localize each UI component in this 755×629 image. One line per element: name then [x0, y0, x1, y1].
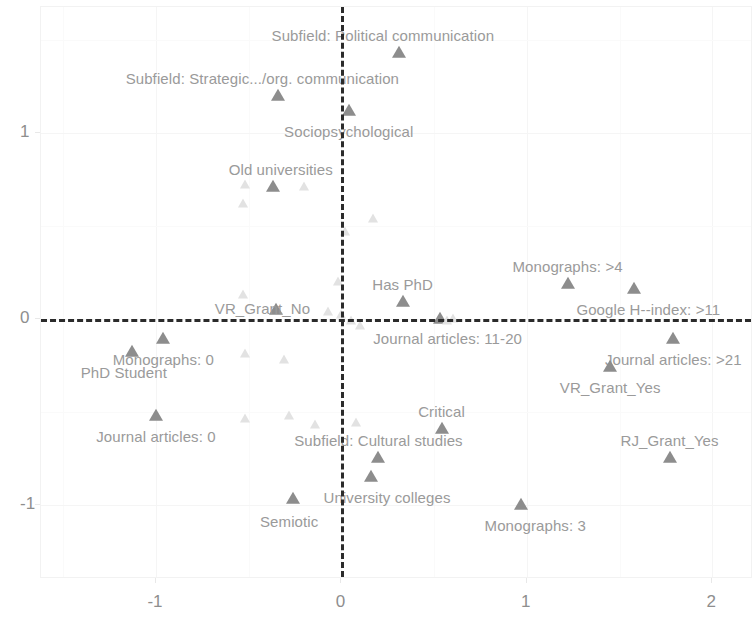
data-point — [603, 360, 617, 372]
x-tick-mark — [340, 578, 341, 583]
data-point-faint — [238, 198, 248, 207]
data-point — [364, 470, 378, 482]
data-point — [663, 451, 677, 463]
gridline-horizontal-minor — [41, 226, 751, 227]
data-point-faint — [340, 226, 350, 235]
data-point-label: Monographs: 3 — [485, 517, 586, 532]
data-point — [286, 492, 300, 504]
data-point — [125, 345, 139, 357]
data-point-label: Critical — [418, 403, 465, 418]
data-point-label: Has PhD — [372, 277, 433, 292]
y-tick-mark — [35, 504, 40, 505]
x-tick-label: 2 — [706, 592, 715, 612]
chart-figure: Subfield: Political communicationSubfiel… — [0, 0, 755, 629]
data-point-faint — [299, 182, 309, 191]
data-point-label: Google H--index: >11 — [576, 302, 720, 317]
data-point-label: PhD Student — [81, 365, 167, 380]
data-point — [342, 104, 356, 116]
data-point-faint — [240, 414, 250, 423]
y-tick-label: 1 — [20, 122, 29, 142]
plot-panel: Subfield: Political communicationSubfiel… — [40, 6, 752, 578]
data-point-faint — [448, 314, 458, 323]
data-point-label: Old universities — [229, 162, 333, 177]
gridline-vertical-minor — [620, 7, 621, 577]
gridline-horizontal-minor — [41, 412, 751, 413]
data-point-faint — [238, 289, 248, 298]
data-point — [396, 295, 410, 307]
data-point — [392, 46, 406, 58]
data-point-label: RJ_Grant_Yes — [620, 433, 718, 448]
x-tick-label: 1 — [521, 592, 530, 612]
data-point-label: Journal articles: 0 — [96, 428, 215, 443]
data-point-label: Semiotic — [260, 514, 318, 529]
data-point-faint — [333, 276, 343, 285]
data-point-label: Subfield: Strategic.../org. communicatio… — [126, 71, 399, 86]
data-point — [271, 89, 285, 101]
data-point-faint — [310, 419, 320, 428]
data-point — [666, 332, 680, 344]
data-point-faint — [323, 306, 333, 315]
x-tick-mark — [711, 578, 712, 583]
gridline-vertical-minor — [63, 7, 64, 577]
data-point-faint — [240, 180, 250, 189]
data-point-label: Sociopsychological — [284, 124, 413, 139]
data-point-label: University colleges — [324, 489, 451, 504]
data-point — [627, 282, 641, 294]
data-point — [561, 277, 575, 289]
gridline-vertical — [712, 7, 713, 577]
y-tick-label: -1 — [20, 494, 35, 514]
data-point-label: Subfield: Cultural studies — [294, 433, 463, 448]
y-tick-mark — [35, 318, 40, 319]
x-tick-mark — [155, 578, 156, 583]
data-point-label: Journal articles: >21 — [605, 352, 742, 367]
data-point-label: Monographs: >4 — [512, 258, 622, 273]
data-point-faint — [368, 213, 378, 222]
data-point-faint — [240, 349, 250, 358]
data-point-label: Journal articles: 11-20 — [373, 331, 522, 346]
x-tick-mark — [526, 578, 527, 583]
gridline-vertical — [527, 7, 528, 577]
y-tick-label: 0 — [20, 308, 29, 328]
data-point — [149, 408, 163, 420]
data-point-label: VR_Grant_Yes — [560, 380, 661, 395]
data-point-label: Subfield: Political communication — [272, 28, 495, 43]
x-tick-label: 0 — [336, 592, 345, 612]
data-point-faint — [279, 354, 289, 363]
y-tick-mark — [35, 132, 40, 133]
data-point — [514, 498, 528, 510]
data-point-faint — [284, 410, 294, 419]
data-point — [156, 332, 170, 344]
gridline-vertical-minor — [249, 7, 250, 577]
gridline-horizontal — [41, 319, 751, 320]
gridline-vertical — [156, 7, 157, 577]
x-tick-label: -1 — [147, 592, 162, 612]
data-point-faint — [351, 418, 361, 427]
data-point-faint — [355, 321, 365, 330]
data-point — [266, 180, 280, 192]
data-point — [371, 451, 385, 463]
data-point-label: VR_Grant_No — [215, 300, 310, 315]
